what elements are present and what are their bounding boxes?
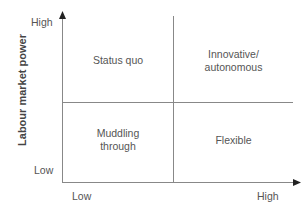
quadrant-top-left-label: Status quo (93, 54, 143, 66)
quadrant-bottom-left-label-line2: through (63, 140, 173, 153)
y-axis-arrow-icon (59, 11, 66, 19)
y-axis-title: Labour market power (16, 30, 28, 150)
quadrant-top-right-label-line2: autonomous (174, 61, 293, 74)
quadrant-grid (0, 0, 307, 213)
quadrant-bottom-left: Muddling through (63, 127, 173, 153)
x-axis-low-label: Low (72, 190, 91, 203)
quadrant-top-right: Innovative/ autonomous (174, 48, 293, 74)
x-axis-high-label: High (257, 190, 279, 203)
quadrant-bottom-right: Flexible (174, 134, 293, 147)
quadrant-bottom-right-label: Flexible (215, 134, 251, 146)
x-axis-arrow-icon (293, 179, 301, 186)
quadrant-top-left: Status quo (63, 54, 173, 67)
quadrant-bottom-left-label-line1: Muddling (63, 127, 173, 140)
y-axis-low-label: Low (34, 164, 53, 177)
quadrant-top-right-label-line1: Innovative/ (174, 48, 293, 61)
y-axis-high-label: High (31, 16, 53, 29)
